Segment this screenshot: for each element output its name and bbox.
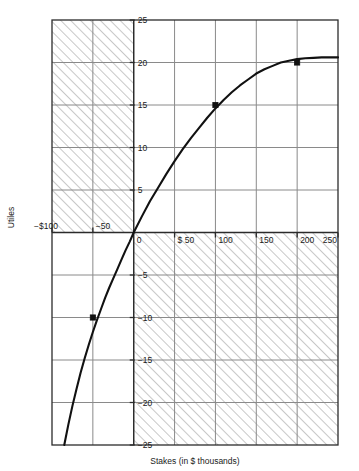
y-tick-label: 5 [138, 185, 143, 195]
lower-right-hatched [134, 233, 338, 446]
chart-canvas: 252015105−5−10−15−20−25−$100−500$ 501001… [0, 0, 359, 471]
x-tick-label: −50 [96, 221, 111, 231]
utility-curve-chart: 252015105−5−10−15−20−25−$100−500$ 501001… [0, 0, 359, 471]
y-tick-label: 25 [138, 15, 148, 25]
x-axis-title: Stakes (in $ thousands) [150, 456, 239, 466]
y-tick-label: −5 [138, 270, 148, 280]
y-tick-label: 15 [138, 100, 148, 110]
data-point-marker [90, 315, 95, 320]
y-axis-title: Utiles [6, 207, 16, 228]
y-tick-label: 10 [138, 143, 148, 153]
x-tick-label: 200 [300, 235, 314, 245]
y-tick-label: −15 [138, 355, 153, 365]
x-tick-label: 100 [218, 235, 232, 245]
x-tick-label: 250 [323, 235, 337, 245]
y-tick-label: 20 [138, 58, 148, 68]
data-point-marker [295, 60, 300, 65]
x-tick-label: −$100 [34, 221, 58, 231]
y-tick-label: −10 [138, 313, 153, 323]
x-tick-label: $ 50 [178, 235, 195, 245]
y-tick-label: −20 [138, 398, 153, 408]
y-tick-label: −25 [138, 440, 153, 450]
x-tick-label: 150 [259, 235, 273, 245]
data-point-marker [213, 102, 218, 107]
x-tick-label: 0 [137, 235, 142, 245]
